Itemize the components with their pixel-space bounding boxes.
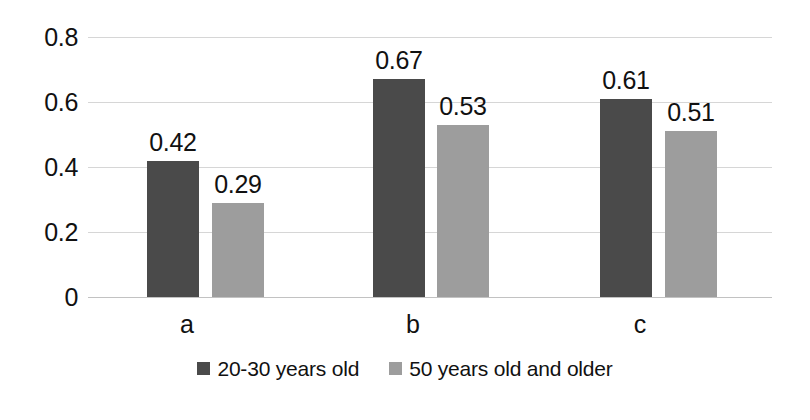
bar-a-50-plus[interactable]	[212, 203, 264, 297]
data-label-a-50-plus: 0.29	[192, 172, 284, 197]
y-tick-label: 0.2	[6, 220, 78, 245]
bar-b-50-plus[interactable]	[437, 125, 489, 297]
legend-item-50-plus[interactable]: 50 years old and older	[389, 358, 612, 379]
data-label-c-50-plus: 0.51	[645, 100, 737, 125]
y-tick-label: 0.8	[6, 25, 78, 50]
data-label-c-20-30: 0.61	[580, 68, 672, 93]
bar-chart: 0.8 0.6 0.4 0.2 0 0.42 0.29 0.67 0.53 0.…	[0, 0, 810, 420]
gridline-0.8	[88, 37, 772, 38]
legend-item-20-30[interactable]: 20-30 years old	[197, 358, 359, 379]
legend-swatch-icon	[197, 362, 210, 375]
data-label-b-20-30: 0.67	[353, 48, 445, 73]
legend-swatch-icon	[389, 362, 402, 375]
y-tick-label: 0	[6, 285, 78, 310]
x-category-label-b: b	[373, 312, 453, 337]
y-tick-label: 0.4	[6, 155, 78, 180]
bar-c-50-plus[interactable]	[665, 131, 717, 297]
legend-label: 50 years old and older	[409, 358, 612, 379]
legend-label: 20-30 years old	[217, 358, 359, 379]
chart-legend: 20-30 years old 50 years old and older	[0, 358, 810, 379]
gridline-0	[88, 297, 772, 298]
y-tick-label: 0.6	[6, 90, 78, 115]
bar-c-20-30[interactable]	[600, 99, 652, 297]
x-category-label-c: c	[600, 312, 680, 337]
y-axis-tick-labels: 0.8 0.6 0.4 0.2 0	[0, 37, 78, 297]
data-label-a-20-30: 0.42	[127, 130, 219, 155]
data-label-b-50-plus: 0.53	[417, 94, 509, 119]
x-category-label-a: a	[147, 312, 227, 337]
